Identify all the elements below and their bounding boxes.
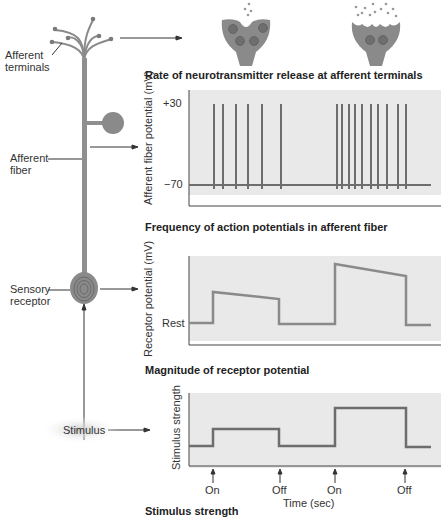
title-ap-frequency: Frequency of action potentials in affere…	[145, 221, 388, 233]
ytick-minus70: −70	[164, 178, 183, 190]
label-line: Sensory	[10, 283, 50, 295]
marker-off-1: Off	[272, 484, 286, 496]
marker-on-2: On	[327, 484, 342, 496]
ylabel-afferent-potential: Afferent fiber potential (mV)	[142, 71, 154, 205]
leader-lines	[48, 43, 82, 290]
label-line: Afferent	[10, 152, 48, 164]
title-receptor-magnitude: Magnitude of receptor potential	[145, 364, 309, 376]
label-stimulus: Stimulus	[63, 424, 105, 436]
label-line: fiber	[10, 164, 48, 176]
ytick-plus30: +30	[163, 97, 182, 109]
label-afferent-fiber: Afferent fiber	[10, 152, 48, 176]
terminal-high-release	[352, 3, 400, 66]
label-sensory-receptor: Sensory receptor	[10, 283, 50, 307]
label-line: Afferent	[5, 49, 50, 61]
title-release-rate: Rate of neurotransmitter release at affe…	[145, 69, 423, 81]
afferent-neuron	[50, 17, 124, 304]
label-afferent-terminals: Afferent terminals	[5, 49, 50, 73]
ylabel-stimulus-strength: Stimulus strength	[170, 385, 182, 470]
label-line: receptor	[10, 295, 50, 307]
terminal-low-release	[222, 3, 270, 66]
receptor-potential-plot	[189, 256, 441, 345]
marker-off-2: Off	[397, 484, 411, 496]
action-potential-plot	[189, 90, 441, 206]
ytick-rest: Rest	[162, 317, 185, 329]
ylabel-receptor-potential: Receptor potential (mV)	[142, 241, 154, 357]
title-stimulus-strength: Stimulus strength	[145, 505, 239, 517]
marker-on-1: On	[205, 484, 220, 496]
label-line: terminals	[5, 61, 50, 73]
xlabel-time: Time (sec)	[283, 497, 335, 509]
stimulus-plot	[189, 393, 441, 483]
